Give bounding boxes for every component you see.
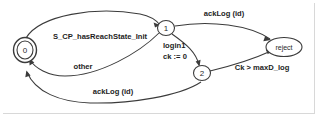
node-1[interactable]: 1: [158, 21, 175, 36]
edge-label-s-cp-hasreachstate-init: S_CP_hasReachState_Init: [53, 32, 148, 41]
edge-label-acklog-id-bottom: ackLog (id): [93, 87, 134, 96]
node-0-label: 0: [23, 46, 28, 55]
edge-label-acklog-id-top: ackLog (id): [204, 9, 245, 18]
node-reject-label: reject: [275, 44, 292, 52]
node-2-label: 2: [200, 69, 205, 78]
canvas-bottom-shadow: [3, 113, 315, 114]
canvas-right-shadow: [314, 3, 315, 114]
edge-label-login1: login1: [163, 41, 186, 50]
automaton-canvas: 0 1 2 reject S_CP_hasReachState_Init ack…: [0, 0, 315, 114]
edge-1-to-reject: [175, 24, 271, 42]
edge-2-to-0-arrowhead: [25, 71, 30, 78]
node-reject[interactable]: reject: [266, 38, 302, 57]
edge-1-to-2: [172, 34, 201, 67]
node-0[interactable]: 0: [14, 38, 37, 63]
edge-label-other: other: [74, 62, 93, 71]
state-machine-diagram: 0 1 2 reject S_CP_hasReachState_Init ack…: [0, 0, 315, 114]
edge-label-ck-greater-maxd-log: Ck > maxD_log: [235, 63, 290, 72]
edge-1-to-reject-path: [175, 24, 270, 39]
edge-label-ck-assign-zero: ck := 0: [163, 52, 187, 61]
node-1-label: 1: [164, 24, 169, 33]
node-2[interactable]: 2: [194, 66, 211, 81]
